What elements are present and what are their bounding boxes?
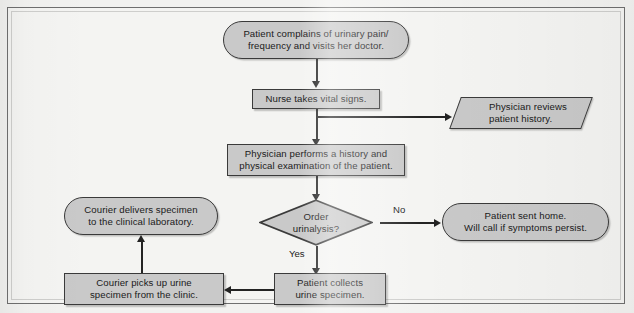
node-courier-picks-up-label: Courier picks up urinespecimen from the … [80,277,208,302]
connector-vitals-trunk [316,109,318,141]
connector-collects-to-pickup [226,289,274,291]
node-patient-complains[interactable]: Patient complains of urinary pain/freque… [223,21,409,59]
node-physician-exam[interactable]: Physician performs a history andphysical… [227,144,405,176]
edge-label-yes: Yes [289,248,305,259]
node-physician-reviews[interactable]: Physician reviewspatient history. [455,97,587,129]
node-courier-picks-up[interactable]: Courier picks up urinespecimen from the … [64,273,224,305]
node-patient-sent-home-label: Patient sent home.Will call if symptoms … [454,210,597,235]
node-physician-exam-label: Physician performs a history andphysical… [229,148,402,173]
node-physician-reviews-label: Physician reviewspatient history. [455,101,577,126]
diagram-frame: Patient complains of urinary pain/freque… [7,7,625,304]
node-patient-sent-home[interactable]: Patient sent home.Will call if symptoms … [442,203,609,241]
node-patient-collects-label: Patient collectsurine specimen. [285,277,374,302]
node-courier-delivers[interactable]: Courier delivers specimento the clinical… [64,197,218,235]
arrowhead-courier-delivers [137,235,145,242]
connector-no-branch [380,222,436,224]
arrowhead-patient-sent-home [434,219,441,227]
node-patient-collects[interactable]: Patient collectsurine specimen. [274,273,386,305]
connector-pickup-to-delivers [141,240,143,274]
node-nurse-vitals[interactable]: Nurse takes vital signs. [252,89,380,109]
connector-yes-branch [316,246,318,270]
connector-vitals-to-review [316,116,447,118]
arrowhead-courier-picks-up [224,286,231,294]
edge-label-no: No [393,204,405,215]
arrowhead-physician-reviews [445,113,452,121]
flowchart-canvas: Patient complains of urinary pain/freque… [0,0,634,313]
node-courier-delivers-label: Courier delivers specimento the clinical… [74,204,207,229]
node-order-urinalysis[interactable]: Orderurinalysis? [259,199,373,246]
connector-complains-to-vitals [316,59,318,83]
node-patient-complains-label: Patient complains of urinary pain/freque… [233,28,398,53]
node-nurse-vitals-label: Nurse takes vital signs. [260,93,371,105]
arrowhead-vitals [312,81,320,88]
node-order-urinalysis-label: Orderurinalysis? [283,211,349,235]
